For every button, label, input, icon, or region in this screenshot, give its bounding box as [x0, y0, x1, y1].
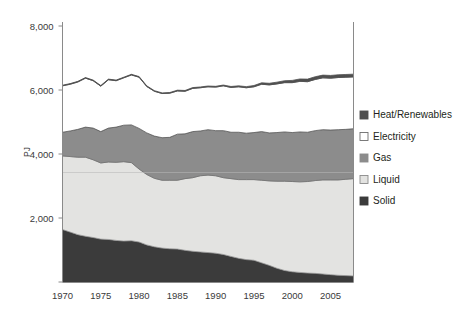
plot-areas — [63, 74, 354, 282]
y-tick-label: 4,000 — [30, 149, 54, 160]
chart-canvas: 19701975198019851990199520002005 2,0004,… — [0, 0, 476, 317]
series-area-electricity — [63, 75, 354, 138]
y-axis-title-label: PJ — [22, 147, 32, 157]
x-tick-label: 1995 — [243, 290, 264, 301]
y-tick-labels: 2,0004,0006,0008,000 — [30, 21, 54, 224]
x-tick-label: 2000 — [282, 290, 303, 301]
legend-swatch — [360, 154, 368, 162]
legend-swatch — [360, 111, 368, 119]
chart-legend: Heat/RenewablesElectricityGasLiquidSolid — [360, 109, 452, 206]
x-tick-labels: 19701975198019851990199520002005 — [52, 290, 341, 301]
stacked-area-chart: 19701975198019851990199520002005 2,0004,… — [0, 0, 476, 317]
legend-item-liquid[interactable]: Liquid — [360, 174, 400, 185]
legend-item-electricity[interactable]: Electricity — [360, 131, 416, 142]
legend-item-gas[interactable]: Gas — [360, 152, 391, 163]
y-tick-label: 2,000 — [30, 213, 54, 224]
x-tick-label: 1970 — [52, 290, 73, 301]
y-tick-label: 8,000 — [30, 21, 54, 32]
legend-label: Gas — [373, 152, 391, 163]
legend-swatch — [360, 197, 368, 205]
x-tick-label: 1980 — [129, 290, 150, 301]
x-tick-label: 1990 — [205, 290, 226, 301]
legend-swatch — [360, 176, 368, 184]
legend-label: Heat/Renewables — [373, 109, 452, 120]
legend-label: Solid — [373, 195, 395, 206]
legend-label: Liquid — [373, 174, 400, 185]
y-axis-title: PJ — [22, 147, 32, 157]
legend-item-solid[interactable]: Solid — [360, 195, 395, 206]
legend-swatch — [360, 133, 368, 141]
x-tick-label: 2005 — [320, 290, 341, 301]
x-tick-label: 1975 — [90, 290, 111, 301]
y-tick-label: 6,000 — [30, 85, 54, 96]
legend-item-heat-renewables[interactable]: Heat/Renewables — [360, 109, 452, 120]
legend-label: Electricity — [373, 131, 416, 142]
x-tick-label: 1985 — [167, 290, 188, 301]
